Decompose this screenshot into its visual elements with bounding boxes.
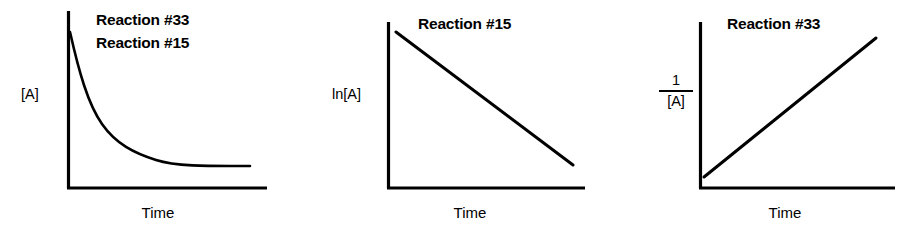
panel-2-title: Reaction #15 xyxy=(418,12,511,35)
panel-2-y-axis-label: ln[A] xyxy=(332,86,361,102)
panel-1-x-axis-label: Time xyxy=(118,204,198,221)
panel-3-x-axis-label: Time xyxy=(745,204,825,221)
panel-2-x-axis-label: Time xyxy=(430,204,510,221)
kinetics-plots-figure: Reaction #33 Reaction #15 [A] Time React… xyxy=(0,0,915,232)
panel-3-y-axis-label: 1 [A] xyxy=(653,72,699,110)
panel-2-title-line-1: Reaction #15 xyxy=(418,12,511,35)
plot-panel-concentration-vs-time: Reaction #33 Reaction #15 [A] Time xyxy=(0,0,300,232)
panel-1-title-line-2: Reaction #15 xyxy=(96,31,189,54)
fraction-denominator: [A] xyxy=(653,92,699,110)
panel-3-title: Reaction #33 xyxy=(727,12,820,35)
panel-3-title-line-1: Reaction #33 xyxy=(727,12,820,35)
plot-panel-ln-concentration-vs-time: Reaction #15 ln[A] Time xyxy=(300,0,605,232)
panel-1-title: Reaction #33 Reaction #15 xyxy=(96,8,189,54)
panel-1-y-axis-label: [A] xyxy=(21,86,39,102)
fraction-numerator: 1 xyxy=(653,72,699,90)
positive-slope-line xyxy=(704,38,876,177)
plot-panel-inverse-concentration-vs-time: Reaction #33 1 [A] Time xyxy=(605,0,915,232)
negative-slope-line xyxy=(396,32,573,165)
panel-1-title-line-1: Reaction #33 xyxy=(96,8,189,31)
